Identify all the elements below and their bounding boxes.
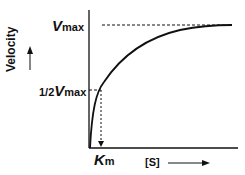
michaelis-menten-plot bbox=[0, 0, 245, 175]
vmax-label: Vmax bbox=[52, 17, 84, 35]
vmax-subscript: max bbox=[62, 21, 84, 33]
vmax-symbol: V bbox=[52, 17, 62, 34]
y-axis-label: Velocity bbox=[4, 27, 18, 72]
km-label: Km bbox=[94, 151, 115, 169]
x-axis-label: [S] bbox=[145, 156, 160, 168]
km-arrowhead-icon bbox=[98, 141, 104, 147]
velocity-arrow-icon bbox=[27, 46, 33, 54]
half-prefix: 1/2 bbox=[39, 86, 54, 98]
km-subscript: m bbox=[105, 155, 115, 167]
half-vmax-label: 1/2Vmax bbox=[39, 82, 86, 100]
saturation-curve bbox=[90, 25, 232, 148]
km-symbol: K bbox=[94, 151, 105, 168]
half-vmax-symbol: V bbox=[54, 82, 64, 99]
half-vmax-subscript: max bbox=[64, 86, 86, 98]
substrate-arrow-icon bbox=[202, 160, 210, 166]
